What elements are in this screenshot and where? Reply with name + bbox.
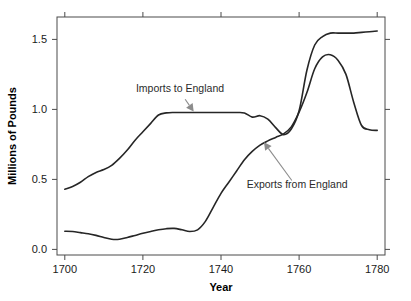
annotation-leader-line (185, 99, 189, 105)
y-tick-label: 0.0 (32, 243, 47, 255)
y-axis-ticks (52, 39, 390, 249)
x-tick-label: 1700 (53, 263, 77, 275)
x-tick-label: 1720 (131, 263, 155, 275)
x-tick-label: 1760 (287, 263, 311, 275)
x-axis-title: Year (209, 281, 233, 293)
y-tick-label: 0.5 (32, 173, 47, 185)
plot-frame-rect (57, 17, 385, 255)
y-tick-label: 1.0 (32, 103, 47, 115)
x-tick-label: 1780 (365, 263, 389, 275)
annotation-arrow-icon (186, 103, 194, 111)
chart-container: 17001720174017601780 0.00.51.01.5 Import… (0, 0, 411, 301)
annotation-leader-line (268, 148, 291, 180)
annotation-label: Exports from England (247, 178, 348, 190)
line-chart: 17001720174017601780 0.00.51.01.5 Import… (0, 0, 411, 301)
y-axis-tick-labels: 0.00.51.01.5 (32, 33, 47, 255)
annotation-arrow-icon (264, 142, 272, 150)
y-axis-title: Millions of Pounds (6, 87, 18, 185)
x-axis-tick-labels: 17001720174017601780 (53, 263, 390, 275)
x-axis-ticks (65, 12, 377, 260)
annotation-label: Imports to England (136, 82, 224, 94)
plot-frame (57, 17, 385, 255)
series-lines (65, 31, 377, 240)
x-tick-label: 1740 (209, 263, 233, 275)
y-tick-label: 1.5 (32, 33, 47, 45)
chart-annotations: Imports to EnglandExports from England (136, 82, 348, 190)
